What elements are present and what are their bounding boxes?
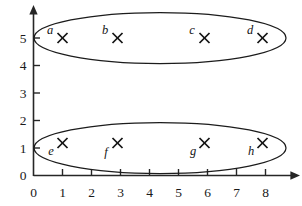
y-tick-label-5: 5	[20, 31, 27, 46]
scatter-plot-figure: a b c d e f g h 0 1 2 3 4 5 6 7 8 0 1 2 …	[0, 0, 302, 206]
marker-e	[58, 138, 68, 148]
point-labels: a b c d e f g h	[47, 23, 254, 159]
x-tick-label-1: 1	[59, 185, 66, 200]
y-tick-label-0: 0	[20, 168, 27, 183]
x-tick-label-4: 4	[146, 185, 153, 200]
plot-canvas: a b c d e f g h 0 1 2 3 4 5 6 7 8 0 1 2 …	[0, 0, 302, 206]
y-axis-ticks	[34, 38, 41, 148]
x-tick-label-0: 0	[30, 185, 37, 200]
point-label-a: a	[47, 23, 53, 37]
marker-c	[200, 33, 210, 43]
x-tick-label-6: 6	[204, 185, 211, 200]
y-tick-labels: 0 1 2 3 4 5	[20, 31, 27, 184]
point-label-d: d	[247, 23, 254, 37]
x-tick-label-2: 2	[88, 185, 95, 200]
y-tick-label-4: 4	[20, 58, 27, 73]
point-label-g: g	[190, 144, 196, 158]
y-tick-label-3: 3	[20, 86, 27, 101]
marker-a	[58, 33, 68, 43]
x-tick-labels: 0 1 2 3 4 5 6 7 8	[30, 185, 269, 200]
x-tick-label-3: 3	[117, 185, 124, 200]
x-tick-label-8: 8	[262, 185, 269, 200]
data-markers	[58, 33, 268, 148]
point-label-c: c	[189, 23, 195, 37]
x-tick-label-5: 5	[175, 185, 182, 200]
marker-g	[200, 138, 210, 148]
point-label-b: b	[102, 23, 108, 37]
x-tick-label-7: 7	[233, 185, 240, 200]
marker-h	[258, 138, 268, 148]
cluster-ellipse-top	[34, 13, 286, 64]
marker-b	[113, 33, 123, 43]
y-tick-label-1: 1	[20, 141, 27, 156]
point-label-e: e	[48, 144, 54, 158]
point-label-h: h	[248, 144, 254, 158]
point-label-f: f	[104, 145, 109, 159]
marker-f	[113, 138, 123, 148]
marker-d	[258, 33, 268, 43]
y-tick-label-2: 2	[20, 113, 27, 128]
